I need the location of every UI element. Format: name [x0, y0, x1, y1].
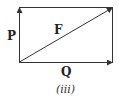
label-f: F [54, 24, 63, 36]
label-q: Q [61, 66, 71, 78]
label-p: P [7, 30, 16, 42]
caption: (iii) [56, 84, 75, 95]
vector-f-arrow [20, 8, 113, 62]
